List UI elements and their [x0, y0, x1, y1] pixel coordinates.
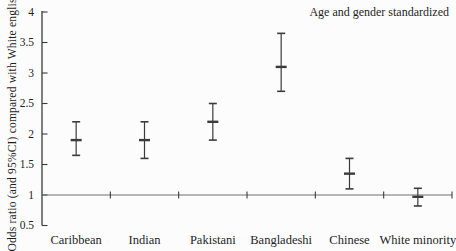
- category-label: Pakistani: [190, 233, 236, 247]
- category-label: Bangladeshi: [250, 233, 312, 247]
- y-tick-label: 3: [28, 67, 34, 79]
- odds-ratio-chart: Odds ratio (and 95%CI) compared with Whi…: [0, 0, 456, 251]
- y-tick-label: 4: [28, 6, 34, 18]
- y-tick-label: 1.5: [20, 158, 35, 170]
- y-tick-label: 3.5: [20, 36, 35, 48]
- plot-area: 0.511.522.533.54CaribbeanIndianPakistani…: [0, 0, 456, 251]
- category-label: Chinese: [329, 233, 370, 247]
- y-tick-label: 1: [28, 189, 34, 201]
- category-label: Indian: [129, 233, 162, 247]
- category-label: Caribbean: [50, 233, 102, 247]
- y-tick-label: 2: [28, 128, 34, 140]
- y-tick-label: 2.5: [20, 97, 35, 109]
- category-label: White minority: [379, 233, 456, 247]
- y-tick-label: 0.5: [20, 219, 35, 231]
